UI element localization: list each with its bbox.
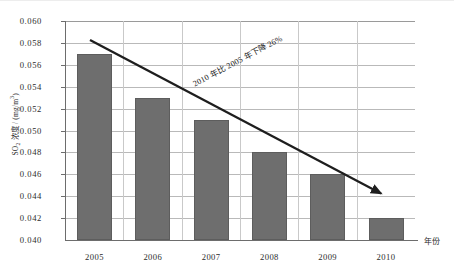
bar-2007[interactable] [194, 120, 229, 241]
y-tick-label: 0.052 [0, 104, 42, 114]
x-tick-label-2006: 2006 [123, 252, 183, 262]
decline-annotation-label: 2010 年比 2005 年下降 26% [190, 31, 284, 88]
y-axis-title-tail: ) [11, 93, 20, 96]
top-hairline-divider [0, 0, 454, 1]
x-tick-label-2009: 2009 [298, 252, 358, 262]
x-axis-line [65, 240, 418, 241]
bar-2010[interactable] [369, 218, 404, 240]
bar-2009[interactable] [310, 174, 345, 240]
category-separator [182, 21, 183, 240]
x-tick-label-2005: 2005 [65, 252, 125, 262]
so2-concentration-bar-chart: SO2 浓度 / (mg/m3) 0.060 0.058 0.056 0.054… [0, 0, 454, 278]
y-tick-label: 0.046 [0, 169, 42, 179]
y-axis-line [65, 21, 66, 241]
y-tick-label: 0.042 [0, 213, 42, 223]
category-separator [357, 21, 358, 240]
x-tick-label-2008: 2008 [239, 252, 299, 262]
x-tick-label-2010: 2010 [356, 252, 416, 262]
y-tick-label: 0.044 [0, 191, 42, 201]
category-separator [123, 21, 124, 240]
y-tick-label: 0.050 [0, 126, 42, 136]
category-separator [298, 21, 299, 240]
y-tick-label: 0.048 [0, 147, 42, 157]
y-tick-label: 0.058 [0, 38, 42, 48]
x-tick-label-2007: 2007 [181, 252, 241, 262]
y-tick-label: 0.060 [0, 16, 42, 26]
y-tick-label: 0.056 [0, 60, 42, 70]
bar-2008[interactable] [252, 152, 287, 240]
bar-2006[interactable] [135, 98, 170, 240]
bar-2005[interactable] [77, 54, 112, 240]
y-tick-label: 0.054 [0, 82, 42, 92]
y-axis-title-exponent: 3 [9, 96, 15, 99]
y-axis-title-subscript: 2 [15, 143, 21, 146]
y-tick-label: 0.040 [0, 235, 42, 245]
x-axis-title: 年份 [424, 235, 440, 246]
